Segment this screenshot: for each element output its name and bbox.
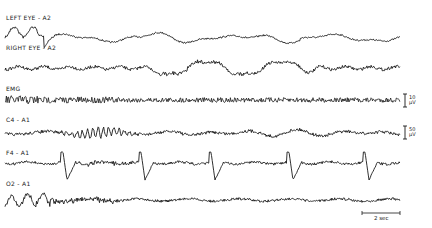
channel-label-f4-a1: F4 - A1 xyxy=(6,149,29,156)
left-eye-trace xyxy=(5,27,400,48)
o2-a1-trace xyxy=(5,193,400,207)
right-eye-trace xyxy=(5,60,400,76)
c4-calibration-label: 50 µV xyxy=(409,127,416,137)
emg-trace xyxy=(5,96,400,104)
emg-calibration-label: 10 µV xyxy=(409,95,416,105)
channel-label-emg: EMG xyxy=(6,85,21,92)
f4-a1-trace xyxy=(5,152,400,180)
channel-label-left-eye: LEFT EYE - A2 xyxy=(6,14,51,21)
time-scale-label: 2 sec xyxy=(374,215,389,221)
channel-label-right-eye: RIGHT EYE - A2 xyxy=(6,44,56,51)
c4-cal-bar-icon xyxy=(403,126,407,139)
emg-cal-bar-icon xyxy=(403,94,407,107)
c4-a1-trace xyxy=(5,127,400,138)
c4-calibration-unit: µV xyxy=(409,132,416,137)
emg-calibration-unit: µV xyxy=(409,100,416,105)
channel-label-o2-a1: O2 - A1 xyxy=(6,180,31,187)
channel-label-c4-a1: C4 - A1 xyxy=(6,116,30,123)
polysomnography-traces xyxy=(0,0,432,228)
